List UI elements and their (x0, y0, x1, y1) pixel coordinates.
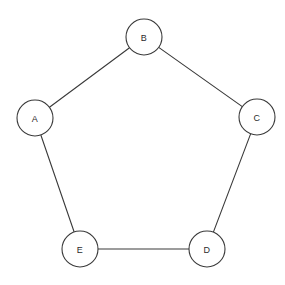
edge-c-d (213, 134, 250, 232)
node-label-d: D (204, 245, 211, 255)
edge-b-c (159, 47, 243, 106)
edge-e-a (41, 135, 74, 232)
node-label-e: E (77, 245, 83, 255)
node-c[interactable]: C (239, 99, 275, 135)
node-label-c: C (254, 113, 261, 123)
node-label-b: B (141, 33, 147, 43)
edges-layer (41, 47, 251, 249)
edge-a-b (49, 48, 129, 108)
node-b[interactable]: B (126, 19, 162, 55)
node-e[interactable]: E (62, 231, 98, 267)
node-d[interactable]: D (189, 231, 225, 267)
node-label-a: A (32, 114, 38, 124)
node-a[interactable]: A (17, 100, 53, 136)
graph-diagram: ABCDE (0, 0, 285, 285)
nodes-layer: ABCDE (17, 19, 275, 267)
